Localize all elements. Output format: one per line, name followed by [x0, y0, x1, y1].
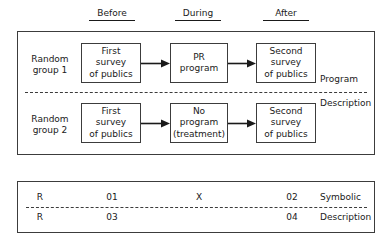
symbolic-cell-row1-observation-before: 01	[101, 192, 123, 203]
column-header-after: After	[263, 8, 309, 21]
panel-caption-program: Program	[320, 74, 358, 85]
box-line-1: First	[102, 106, 121, 118]
box-line-2: program	[180, 117, 218, 129]
symbolic-cell-row1-randomization: R	[33, 192, 47, 203]
box-line-2: survey	[271, 117, 301, 129]
box-line-3: of publics	[264, 69, 307, 81]
box-line-2: survey	[96, 57, 126, 69]
box-line-3: (treatment)	[173, 129, 225, 141]
process-box-group1-after: Second survey of publics	[256, 43, 316, 83]
column-header-before: Before	[89, 8, 135, 21]
box-line-3: of publics	[89, 69, 132, 81]
box-line-2: survey	[271, 57, 301, 69]
arrow-right-icon	[228, 119, 256, 128]
process-box-group2-during: No program (treatment)	[170, 103, 228, 143]
group-label-random-group-1: Random group 1	[22, 54, 78, 76]
box-line-1: Second	[269, 46, 302, 58]
group-label-line-2: group 2	[22, 125, 78, 136]
symbolic-cell-row2-observation-after: 04	[281, 212, 303, 223]
symbolic-cell-row1-observation-after: 02	[281, 192, 303, 203]
symbolic-cell-row2-randomization: R	[33, 212, 47, 223]
arrow-right-icon	[141, 119, 170, 128]
group-label-random-group-2: Random group 2	[22, 114, 78, 136]
column-header-during: During	[175, 8, 221, 21]
arrow-right-icon	[228, 59, 256, 68]
symbolic-row-divider-dashed-line	[26, 207, 367, 208]
box-line-3: of publics	[89, 129, 132, 141]
group-label-line-1: Random	[22, 54, 78, 65]
process-box-group1-during: PR program	[170, 43, 228, 83]
box-line-1: PR	[193, 52, 205, 64]
process-box-group2-before: First survey of publics	[81, 103, 141, 143]
group-label-line-1: Random	[22, 114, 78, 125]
box-line-3: of publics	[264, 129, 307, 141]
symbolic-cell-row1-treatment: X	[192, 192, 206, 203]
box-line-1: First	[102, 46, 121, 58]
symbolic-panel-caption-symbolic: Symbolic	[320, 192, 361, 203]
box-line-2: survey	[96, 117, 126, 129]
symbolic-panel-caption-description: Description	[320, 212, 371, 223]
box-line-1: Second	[269, 106, 302, 118]
box-line-2: program	[180, 63, 218, 75]
panel-caption-description: Description	[320, 98, 371, 109]
process-box-group1-before: First survey of publics	[81, 43, 141, 83]
symbolic-cell-row2-observation-before: 03	[101, 212, 123, 223]
group-divider-dashed-line	[25, 92, 367, 93]
group-label-line-2: group 1	[22, 65, 78, 76]
arrow-right-icon	[141, 59, 170, 68]
process-box-group2-after: Second survey of publics	[256, 103, 316, 143]
box-line-1: No	[193, 106, 205, 118]
